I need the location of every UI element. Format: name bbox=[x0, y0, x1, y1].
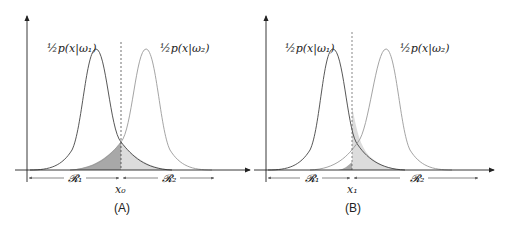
error-region-light bbox=[121, 142, 172, 170]
error-region-dark bbox=[70, 142, 121, 170]
label-threshold: x₁ bbox=[347, 183, 358, 196]
curve-class1 bbox=[30, 49, 172, 170]
label-class2-curve: ½p(x|ω₂) bbox=[400, 42, 450, 56]
curve-class1 bbox=[268, 49, 405, 170]
panel-a: ½p(x|ω₁) ½p(x|ω₂) 𝓡₁ 𝓡₂ x₀ (A) bbox=[15, 16, 250, 215]
label-region2: 𝓡₂ bbox=[410, 172, 424, 185]
panel-b: ½p(x|ω₁) ½p(x|ω₂) 𝓡₁ 𝓡₂ x₁ (B) bbox=[254, 16, 494, 215]
curve-class2 bbox=[310, 49, 452, 170]
label-region1: 𝓡₁ bbox=[68, 172, 82, 185]
error-region-dark bbox=[338, 162, 352, 170]
label-region2: 𝓡₂ bbox=[162, 172, 176, 185]
label-class1-curve: ½p(x|ω₁) bbox=[47, 42, 97, 56]
diagram-canvas: ½p(x|ω₁) ½p(x|ω₂) 𝓡₁ 𝓡₂ x₀ (A) ½p(x|ω₁) … bbox=[0, 0, 508, 227]
panel-caption: (A) bbox=[114, 201, 130, 215]
label-threshold: x₀ bbox=[115, 183, 126, 196]
curve-class2 bbox=[70, 49, 212, 170]
label-region1: 𝓡₁ bbox=[305, 172, 319, 185]
label-class2-curve: ½p(x|ω₂) bbox=[160, 42, 210, 56]
label-class1-curve: ½p(x|ω₁) bbox=[285, 42, 335, 56]
panel-caption: (B) bbox=[345, 201, 361, 215]
